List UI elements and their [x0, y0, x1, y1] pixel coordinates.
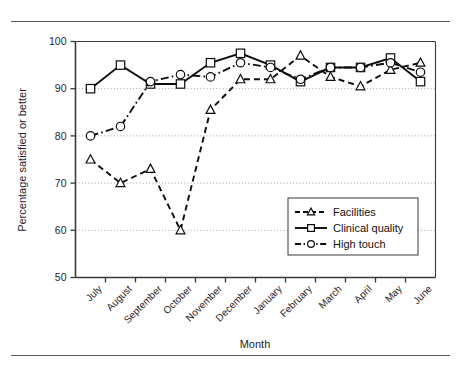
legend-label: Clinical quality [333, 222, 404, 234]
legend-label: High touch [333, 238, 386, 250]
square-marker [308, 225, 315, 232]
circle-marker [116, 122, 124, 130]
triangle-marker [236, 74, 245, 82]
series-line [91, 53, 421, 88]
circle-marker [86, 132, 94, 140]
circle-marker [296, 75, 304, 83]
figure-container: 5060708090100 JulyAugustSeptemberOctober… [0, 0, 461, 371]
square-marker [176, 80, 184, 88]
circle-marker [416, 68, 424, 76]
circle-marker [206, 73, 214, 81]
x-tick-label: May [383, 283, 404, 304]
circle-marker [356, 63, 364, 71]
y-tick-label: 70 [55, 177, 67, 189]
square-marker [116, 61, 124, 69]
x-tick-label: June [411, 283, 434, 306]
y-tick-label: 80 [55, 130, 67, 142]
circle-marker [386, 59, 394, 67]
triangle-marker [176, 225, 185, 233]
circle-marker [326, 63, 334, 71]
x-tick-labels: JulyAugustSeptemberOctoberNovemberDecemb… [84, 283, 435, 326]
y-tick-label: 50 [55, 271, 67, 283]
triangle-marker [356, 82, 365, 90]
square-marker [206, 59, 214, 67]
series-high-touch [86, 59, 424, 141]
triangle-marker [296, 51, 305, 59]
series-clinical-quality [86, 49, 424, 93]
circle-marker [266, 63, 274, 71]
triangle-marker [416, 58, 425, 66]
x-tick-label: March [316, 283, 343, 310]
y-tick-label: 100 [49, 35, 67, 47]
square-marker [416, 77, 424, 85]
x-axis-title: Month [240, 338, 271, 350]
y-tick-label: 60 [55, 224, 67, 236]
circle-marker [308, 241, 315, 248]
circle-marker [236, 59, 244, 67]
line-chart: 5060708090100 JulyAugustSeptemberOctober… [0, 0, 461, 371]
triangle-marker [146, 164, 155, 172]
triangle-marker [326, 72, 335, 80]
square-marker [86, 85, 94, 93]
circle-marker [146, 77, 154, 85]
y-tick-label: 90 [55, 82, 67, 94]
series-line [91, 63, 421, 136]
square-marker [236, 49, 244, 57]
x-tick-label: February [278, 283, 314, 319]
legend: FacilitiesClinical qualityHigh touch [288, 198, 418, 255]
y-tick-labels: 5060708090100 [49, 35, 67, 283]
y-axis-title: Percentage satisfied or better [16, 88, 28, 232]
legend-label: Facilities [333, 206, 376, 218]
triangle-marker [206, 105, 215, 113]
x-tick-label: July [84, 283, 104, 303]
triangle-marker [86, 155, 95, 163]
x-tick-label: April [352, 283, 374, 305]
circle-marker [176, 70, 184, 78]
